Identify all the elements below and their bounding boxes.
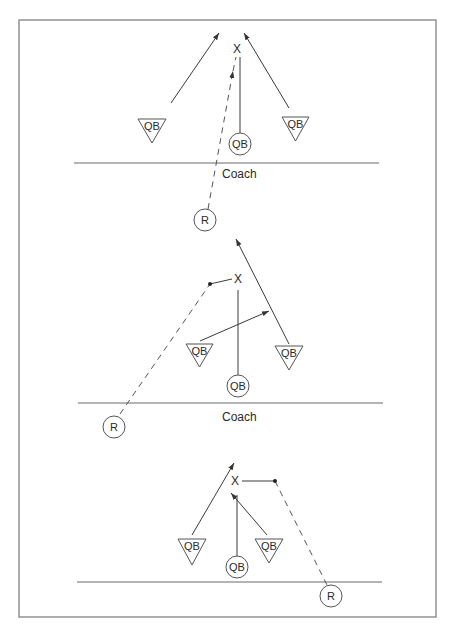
route-point-dot xyxy=(208,282,212,286)
qb-label: QB xyxy=(192,345,208,357)
run-arrow xyxy=(236,239,289,344)
qb-triangle: QB xyxy=(275,346,303,370)
target-x-mark: X xyxy=(231,474,239,488)
run-arrow xyxy=(244,33,289,108)
drill-diagram-figure: CoachQBQBQBRXCoachQBQBQBRXQBQBQBRX xyxy=(0,0,463,641)
path-line xyxy=(210,279,232,284)
qb-label: QB xyxy=(144,120,160,132)
pass-route-dashed xyxy=(233,57,236,71)
target-x-mark: X xyxy=(233,42,241,56)
drill-diagrams: CoachQBQBQBRXCoachQBQBQBRXQBQBQBRX xyxy=(74,33,383,607)
run-arrow xyxy=(231,493,267,535)
qb-label: QB xyxy=(288,118,304,130)
drill-3: QBQBQBRX xyxy=(77,463,382,607)
run-arrow xyxy=(200,311,269,341)
route-point-dot xyxy=(273,479,277,483)
qb-triangle: QB xyxy=(282,117,309,141)
receiver-label: R xyxy=(110,421,118,433)
qb-label: QB xyxy=(230,380,246,392)
receiver: R xyxy=(320,585,342,607)
pass-route-dashed xyxy=(275,481,327,585)
qb-label: QB xyxy=(184,540,200,552)
drill-2: CoachQBQBQBRX xyxy=(78,239,383,438)
qb-label: QB xyxy=(281,347,297,359)
qb-circle: QB xyxy=(226,556,248,578)
figure-frame xyxy=(19,20,436,617)
qb-label: QB xyxy=(261,540,277,552)
drill-1: CoachQBQBQBRX xyxy=(74,33,379,231)
qb-triangle: QB xyxy=(138,119,166,143)
qb-triangle: QB xyxy=(255,539,283,563)
qb-triangle: QB xyxy=(178,539,206,565)
receiver-label: R xyxy=(201,214,209,226)
qb-circle: QB xyxy=(229,133,251,155)
receiver: R xyxy=(194,209,216,231)
receiver: R xyxy=(103,416,125,438)
qb-triangle: QB xyxy=(186,344,213,367)
target-x-mark: X xyxy=(234,272,242,286)
receiver-label: R xyxy=(327,590,335,602)
coach-label: Coach xyxy=(222,410,257,424)
qb-label: QB xyxy=(232,138,248,150)
qb-label: QB xyxy=(229,561,245,573)
run-arrow xyxy=(192,463,234,535)
run-arrow xyxy=(171,33,219,103)
qb-circle: QB xyxy=(227,375,249,397)
coach-label: Coach xyxy=(222,167,257,181)
